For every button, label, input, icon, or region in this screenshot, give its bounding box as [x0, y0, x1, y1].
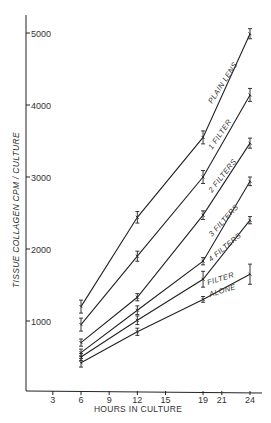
x-tick-label: 21 [217, 395, 227, 405]
series-3-filters [79, 177, 252, 356]
y-tick-label: 1000 [31, 317, 51, 327]
x-tick-label: 19 [198, 395, 208, 405]
x-axis [26, 391, 262, 393]
x-tick-label: 3 [50, 395, 55, 405]
x-tick-label: 6 [78, 395, 83, 405]
x-tick-label: 24 [245, 395, 255, 405]
y-axis-title: TISSUE COLLAGEN CPM / CULTURE [11, 132, 21, 288]
collagen-line-chart: 10002000300040005000 3691215192124 HOURS… [0, 0, 271, 423]
series-label-plain-lens: PLAIN LENS [206, 60, 239, 105]
y-tick-label: 4000 [31, 101, 51, 111]
y-ticks: 10002000300040005000 [26, 29, 51, 327]
y-tick-label: 3000 [31, 173, 51, 183]
y-tick-label: 5000 [31, 29, 51, 39]
y-tick-label: 2000 [31, 245, 51, 255]
x-axis-title: HOURS IN CULTURE [94, 404, 182, 414]
